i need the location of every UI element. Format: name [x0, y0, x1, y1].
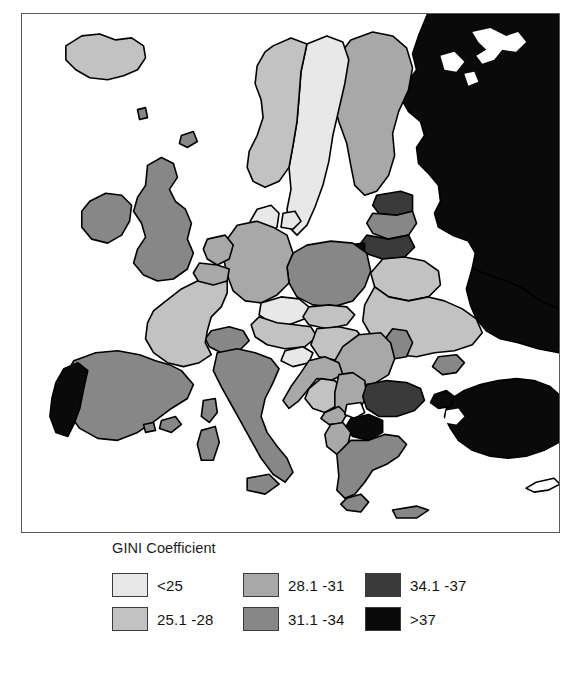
legend-item-class2[interactable]: 25.1 -28: [112, 607, 243, 631]
legend-label-class1: <25: [157, 577, 183, 594]
region-shetland[interactable]: [138, 108, 148, 120]
legend: GINI Coefficient <25 28.1 -31 34.1 -37 2…: [112, 540, 532, 636]
legend-swatch-class6: [365, 607, 401, 631]
region-united-kingdom[interactable]: [134, 157, 194, 281]
legend-item-class1[interactable]: <25: [112, 573, 243, 597]
region-switzerland[interactable]: [205, 327, 249, 353]
region-bulgaria[interactable]: [363, 381, 425, 417]
legend-label-class2: 25.1 -28: [157, 611, 214, 628]
region-iceland[interactable]: [66, 34, 146, 80]
region-crete[interactable]: [393, 506, 429, 518]
legend-grid: <25 28.1 -31 34.1 -37 25.1 -28 31.1 -34: [112, 568, 532, 636]
legend-swatch-class3: [243, 573, 279, 597]
region-turkey-thrace[interactable]: [430, 391, 454, 409]
region-lithuania[interactable]: [361, 235, 415, 259]
region-balearics[interactable]: [159, 416, 181, 432]
region-italy[interactable]: [213, 349, 293, 482]
region-sardinia[interactable]: [197, 426, 219, 460]
region-balearics-small[interactable]: [144, 422, 156, 432]
region-france[interactable]: [146, 281, 228, 367]
region-sicily[interactable]: [247, 474, 279, 494]
legend-label-class6: >37: [410, 611, 436, 628]
legend-item-class6[interactable]: >37: [365, 607, 485, 631]
legend-swatch-class2: [112, 607, 148, 631]
region-estonia[interactable]: [373, 191, 413, 215]
legend-label-class5: 34.1 -37: [410, 577, 467, 594]
region-slovakia[interactable]: [303, 305, 355, 329]
legend-swatch-class5: [365, 573, 401, 597]
map-panel: [21, 13, 560, 533]
region-corsica[interactable]: [201, 399, 217, 423]
legend-item-class4[interactable]: 31.1 -34: [243, 607, 365, 631]
legend-swatch-class4: [243, 607, 279, 631]
legend-item-class5[interactable]: 34.1 -37: [365, 573, 485, 597]
region-scotland-isles[interactable]: [179, 132, 197, 148]
legend-item-class3[interactable]: 28.1 -31: [243, 573, 365, 597]
legend-label-class4: 31.1 -34: [288, 611, 345, 628]
region-cyprus[interactable]: [526, 478, 559, 492]
legend-title: GINI Coefficient: [112, 540, 532, 556]
legend-label-class3: 28.1 -31: [288, 577, 345, 594]
figure-root: GINI Coefficient <25 28.1 -31 34.1 -37 2…: [0, 0, 579, 679]
europe-choropleth-map: [22, 14, 559, 532]
region-poland[interactable]: [287, 241, 371, 307]
region-germany[interactable]: [223, 221, 293, 303]
region-greece[interactable]: [337, 434, 407, 498]
legend-swatch-class1: [112, 573, 148, 597]
region-ireland[interactable]: [82, 193, 132, 243]
region-crimea[interactable]: [432, 355, 464, 375]
